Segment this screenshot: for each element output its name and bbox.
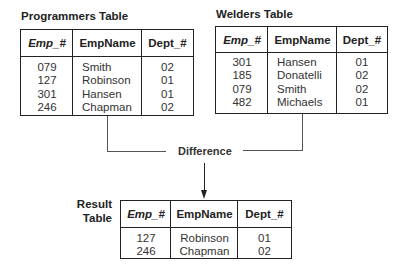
cell: Michaels [277,96,322,109]
dept-num-column: 01 02 02 01 [337,56,387,109]
cell: 079 [216,83,268,96]
arrow-down-icon [201,190,207,199]
result-title-line1: Result [70,198,112,212]
programmers-table-header: Emp_# EmpName Dept_# [21,30,193,57]
cell: 185 [216,69,268,82]
cell: Hansen [277,56,322,69]
cell: 301 [21,88,73,101]
cell: Chapman [171,245,238,258]
cell: Robinson [82,74,132,87]
cell: Donatelli [277,69,322,82]
result-title-line2: Table [70,212,112,226]
cell: 301 [216,56,268,69]
welders-connector-vertical [302,114,303,151]
cell: 01 [142,88,193,101]
cell: 02 [337,83,387,96]
cell: Smith [277,83,322,96]
cell: 01 [142,74,193,87]
emp-num-column: 127 246 [121,232,171,259]
difference-operation-label: Difference [178,145,232,157]
programmers-connector-horizontal [107,151,166,152]
header-dept-num: Dept_# [238,201,291,227]
header-emp-name: EmpName [268,27,337,52]
header-emp-name: EmpName [73,30,142,56]
cell: 02 [238,245,291,258]
programmers-table-title: Programmers Table [21,10,128,22]
header-emp-num: Emp_# [121,201,171,227]
header-emp-num: Emp_# [21,30,73,56]
emp-name-column: Hansen Donatelli Smith Michaels [277,56,322,109]
cell: 246 [121,245,171,258]
programmers-table: Emp_# EmpName Dept_# 079 127 301 246 Smi… [20,29,194,116]
header-dept-num: Dept_# [337,27,387,52]
programmers-connector-vertical [107,116,108,152]
cell: 02 [337,69,387,82]
arrow-shaft [204,163,205,191]
result-table-header: Emp_# EmpName Dept_# [121,201,291,228]
cell: 127 [121,232,171,245]
cell: Smith [82,61,132,74]
cell: 02 [142,101,193,114]
cell: 127 [21,74,73,87]
cell: Robinson [171,232,238,245]
cell: 482 [216,96,268,109]
header-emp-num: Emp_# [216,27,268,52]
emp-name-column: Smith Robinson Hansen Chapman [82,61,132,114]
welders-table: Emp_# EmpName Dept_# 301 185 079 482 Han… [215,26,388,114]
result-table-title: Result Table [70,198,112,225]
cell: Chapman [82,101,132,114]
cell: 01 [238,232,291,245]
header-dept-num: Dept_# [142,30,193,56]
dept-num-column: 02 01 01 02 [142,61,193,114]
emp-num-column: 079 127 301 246 [21,61,73,114]
cell: 079 [21,61,73,74]
dept-num-column: 01 02 [238,232,291,259]
cell: 246 [21,101,73,114]
welders-table-header: Emp_# EmpName Dept_# [216,27,387,53]
cell: 01 [337,96,387,109]
result-table: Emp_# EmpName Dept_# 127 246 Robinson Ch… [120,200,292,259]
cell: Hansen [82,88,132,101]
emp-num-column: 301 185 079 482 [216,56,268,109]
header-emp-name: EmpName [171,201,238,227]
cell: 02 [142,61,193,74]
emp-name-column: Robinson Chapman [171,232,238,259]
welders-connector-horizontal [243,150,303,151]
cell: 01 [337,56,387,69]
welders-table-title: Welders Table [216,8,293,20]
